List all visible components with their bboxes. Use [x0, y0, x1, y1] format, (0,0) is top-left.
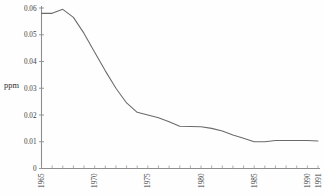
x-tick-label-1965: 1965 [38, 173, 46, 188]
y-tick-label-0.06: 0.06 [24, 5, 37, 13]
y-axis-title: ppm [4, 81, 19, 90]
y-tick-label-0.05: 0.05 [24, 31, 37, 39]
line-chart-plot: 0.060.050.040.030.020.010 19651970197519… [0, 0, 325, 196]
y-tick-label-0.04: 0.04 [24, 58, 37, 66]
x-tick-label-1975: 1975 [144, 173, 152, 188]
y-tick-label-0.01: 0.01 [24, 138, 37, 146]
chart-background [0, 0, 325, 196]
y-tick-label-0.02: 0.02 [24, 112, 37, 120]
x-tick-label-1990: 1990 [304, 173, 312, 188]
y-tick-label-0.03: 0.03 [24, 85, 37, 93]
x-tick-label-1991: 1991 [315, 173, 323, 188]
x-tick-label-1970: 1970 [91, 173, 99, 188]
x-tick-label-1980: 1980 [198, 173, 206, 188]
chart-figure: 0.060.050.040.030.020.010 19651970197519… [0, 0, 325, 196]
x-tick-label-1985: 1985 [251, 173, 259, 188]
y-tick-label-0: 0 [33, 165, 37, 173]
